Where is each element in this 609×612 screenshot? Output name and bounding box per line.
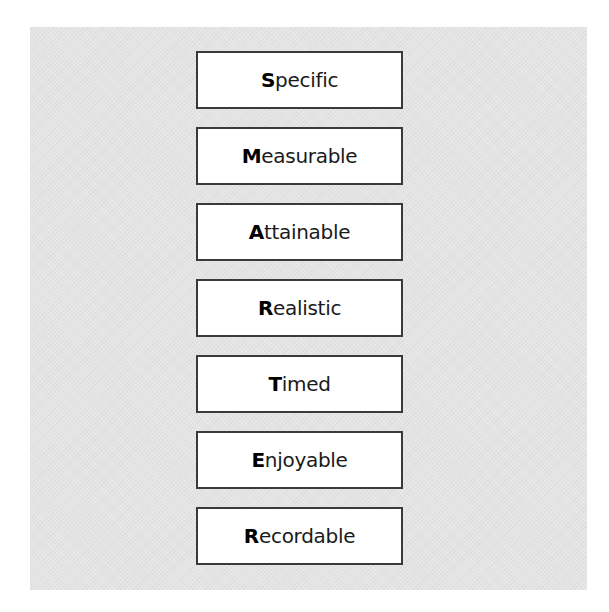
- initial-letter: S: [261, 68, 275, 92]
- initial-letter: T: [268, 372, 281, 396]
- box-attainable: Attainable: [196, 203, 403, 261]
- initial-letter: R: [244, 524, 259, 548]
- box-enjoyable: Enjoyable: [196, 431, 403, 489]
- box-realistic: Realistic: [196, 279, 403, 337]
- box-specific: Specific: [196, 51, 403, 109]
- box-measurable: Measurable: [196, 127, 403, 185]
- word-rest: easurable: [261, 144, 357, 168]
- initial-letter: E: [251, 448, 264, 472]
- word-rest: ealistic: [273, 296, 341, 320]
- initial-letter: R: [258, 296, 273, 320]
- box-timed: Timed: [196, 355, 403, 413]
- word-rest: ttainable: [264, 220, 350, 244]
- initial-letter: M: [242, 144, 262, 168]
- box-recordable: Recordable: [196, 507, 403, 565]
- initial-letter: A: [249, 220, 264, 244]
- word-rest: imed: [282, 372, 331, 396]
- word-rest: ecordable: [259, 524, 355, 548]
- word-rest: pecific: [275, 68, 338, 92]
- word-rest: njoyable: [265, 448, 348, 472]
